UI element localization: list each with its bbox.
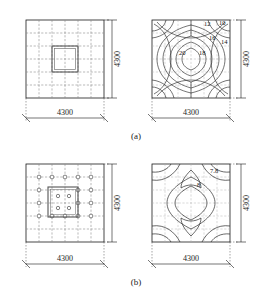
panel-b-contour-svg: 7.8 8 4300 4300 <box>135 146 272 278</box>
contour-label-14: 14 <box>221 38 228 45</box>
dim-label-horizontal-b2: 4300 <box>183 254 199 263</box>
dim-label-horizontal-b: 4300 <box>57 254 73 263</box>
dim-label-horizontal-a: 4300 <box>57 108 73 117</box>
panel-b-plan: 4300 4300 <box>0 146 135 278</box>
panel-a-contour: 12 10 16 14 20 18 4300 4 <box>135 0 272 130</box>
mesh-grid <box>152 164 230 242</box>
dim-label-vertical-b: 4300 <box>113 195 122 211</box>
dim-label-vertical-a2: 4300 <box>242 51 251 67</box>
panel-a-plan-svg: 4300 4300 <box>0 0 135 130</box>
column-pile-nodes <box>56 194 70 209</box>
dim-label-vertical-a: 4300 <box>113 51 122 67</box>
contour-label-20: 20 <box>179 49 186 56</box>
dim-label-horizontal-a2: 4300 <box>183 108 199 117</box>
contour-label-78: 7.8 <box>210 167 218 174</box>
contour-label-18: 18 <box>199 49 206 56</box>
panel-a-contour-svg: 12 10 16 14 20 18 4300 4 <box>135 0 272 130</box>
panel-a-plan: 4300 4300 <box>0 0 135 130</box>
column-inner <box>51 190 76 215</box>
panel-b-contour: 7.8 8 4300 4300 <box>135 146 272 278</box>
caption-a: (a) <box>0 131 272 141</box>
contour-label-12: 12 <box>204 20 211 27</box>
panel-b-plan-svg: 4300 4300 <box>0 146 135 278</box>
column-outer <box>48 187 78 217</box>
figure-container: 4300 4300 <box>0 0 272 300</box>
caption-b: (b) <box>0 277 272 287</box>
dim-label-vertical-b2: 4300 <box>242 195 251 211</box>
contour-label-8: 8 <box>197 181 200 188</box>
mesh-grid <box>26 20 104 98</box>
contour-label-10: 10 <box>219 19 226 26</box>
contour-label-16: 16 <box>209 34 216 41</box>
